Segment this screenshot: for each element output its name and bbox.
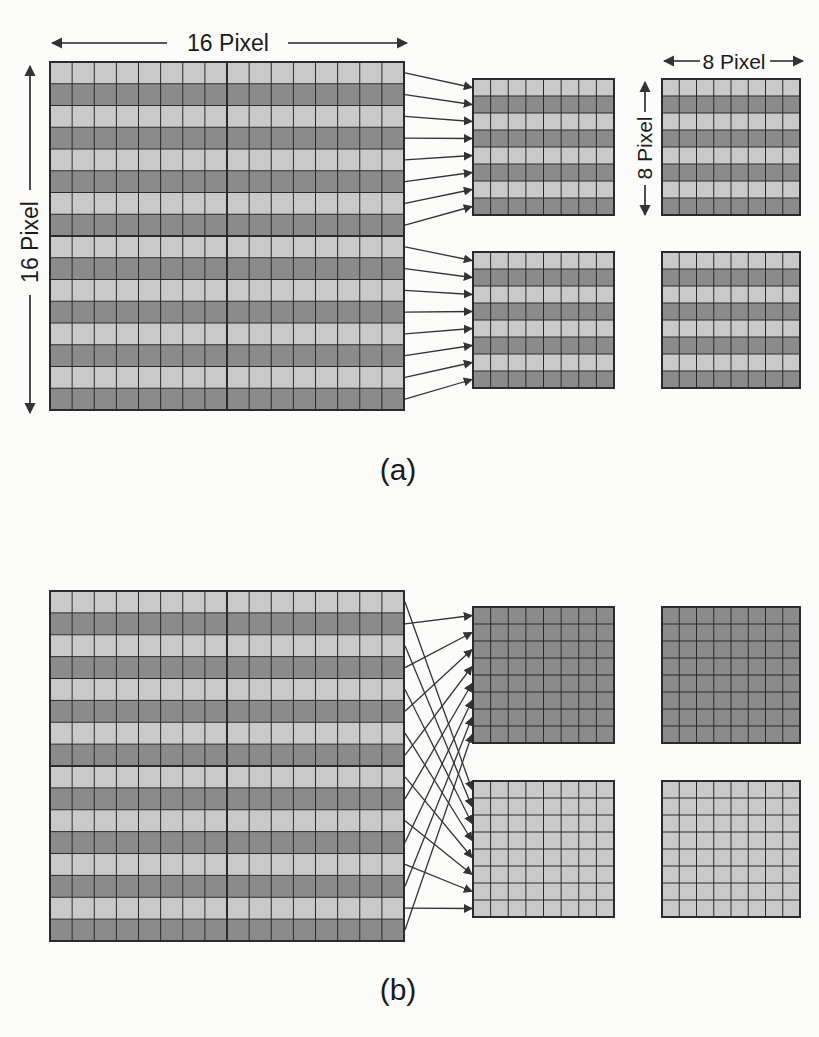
block-a-lower-right [662,252,800,388]
block-a-upper-right [662,79,800,215]
block-a-lower-middle [473,252,614,388]
source-grid-b [50,591,404,941]
block-b-upper-middle [473,607,614,743]
macroblock-diagram: 16 Pixel 16 Pixel 8 Pixel 8 Pixel (a) [0,0,819,1037]
mapping-arrow-icon [405,633,472,668]
block-a-upper-middle [473,79,614,215]
width-16-dimension: 16 Pixel [52,30,407,56]
width-8-label: 8 Pixel [702,50,765,73]
mapping-arrow-icon [405,363,472,378]
mapping-arrow-icon [405,73,472,88]
arrows-a [405,73,472,399]
mapping-arrow-icon [405,616,472,624]
mapping-arrow-icon [405,156,472,160]
width-16-label: 16 Pixel [187,30,269,56]
block-b-lower-right [662,781,800,917]
block-b-upper-right [662,607,800,743]
block-b-lower-middle [473,781,614,917]
mapping-arrow-icon [405,173,472,182]
mapping-arrow-icon [405,329,472,334]
mapping-arrow-icon [405,380,472,400]
mapping-arrow-icon [405,346,472,356]
panel-b: (b) [50,591,800,1006]
mapping-arrow-icon [405,864,472,891]
height-16-dimension: 16 Pixel [17,66,43,413]
mapping-arrow-icon [405,312,472,313]
mapping-arrow-icon [405,247,472,261]
mapping-arrow-icon [405,821,472,875]
mapping-arrow-icon [405,290,472,294]
mapping-arrow-icon [405,777,472,858]
mapping-arrow-icon [405,190,472,204]
height-16-label: 16 Pixel [17,201,43,283]
height-8-dimension: 8 Pixel [633,82,656,215]
mapping-arrow-icon [405,602,472,790]
mapping-arrow-icon [405,95,472,105]
panel-b-caption: (b) [380,973,417,1006]
panel-a: 16 Pixel 16 Pixel 8 Pixel 8 Pixel (a) [17,30,803,486]
panel-a-caption: (a) [380,453,417,486]
mapping-arrow-icon [405,701,472,843]
source-grid-a [50,62,404,410]
mapping-arrow-icon [405,269,472,278]
mapping-arrow-icon [405,735,472,931]
mapping-arrow-icon [405,116,472,121]
mapping-arrow-icon [405,207,472,226]
mapping-arrow-icon [405,733,472,840]
width-8-dimension: 8 Pixel [664,50,803,73]
arrows-b [405,602,472,930]
height-8-label: 8 Pixel [633,116,656,179]
